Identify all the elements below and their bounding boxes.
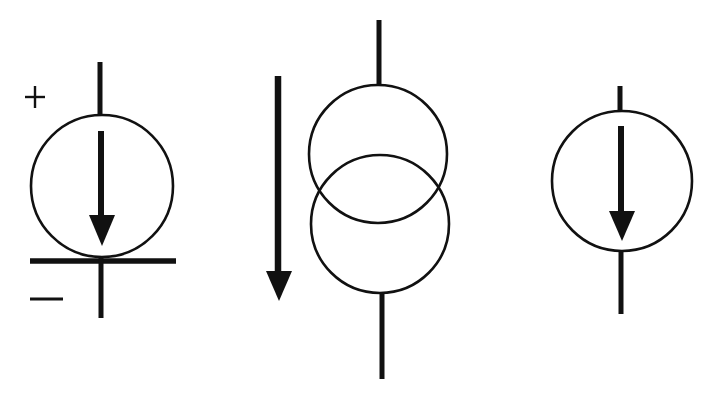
left-arrow-head-icon [89, 215, 115, 246]
left-current-source-symbol: Current source symbol with polarity mark… [25, 62, 176, 318]
middle-external-arrow-head-icon [266, 271, 292, 301]
right-current-source-symbol: Current source symbol with internal arro… [552, 86, 692, 314]
right-arrow-head-icon [609, 211, 635, 241]
current-source-symbols-diagram: Current source symbol with polarity mark… [0, 0, 715, 393]
middle-current-source-symbol: Current source symbol with two overlappi… [266, 20, 449, 379]
plus-sign-icon [25, 86, 45, 108]
